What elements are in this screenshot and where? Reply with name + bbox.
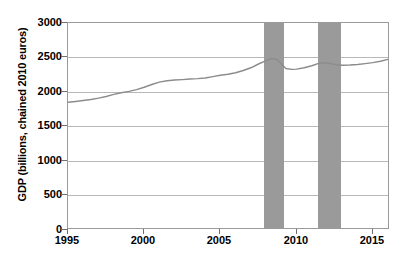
y-tick-label-500: 500: [28, 189, 62, 200]
y-tick-label-2500: 2500: [28, 51, 62, 62]
y-tick-label-3000: 3000: [28, 17, 62, 28]
gdp-line-series: [68, 23, 388, 228]
x-tick-label-2005: 2005: [196, 234, 242, 246]
chart-figure: GDP (billions, chained 2010 euros) 3000 …: [0, 0, 405, 265]
plot-area: [67, 22, 389, 229]
y-tick-label-1500: 1500: [28, 120, 62, 131]
x-tick-label-2000: 2000: [120, 234, 166, 246]
x-tick-label-2015: 2015: [349, 234, 395, 246]
y-tick-label-2000: 2000: [28, 86, 62, 97]
x-tick-label-2010: 2010: [273, 234, 319, 246]
y-tick-label-1000: 1000: [28, 155, 62, 166]
x-tick-label-1995: 1995: [44, 234, 90, 246]
